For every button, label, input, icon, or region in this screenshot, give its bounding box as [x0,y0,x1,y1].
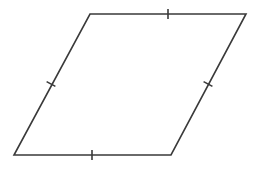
rhombus-outline [14,14,246,155]
rhombus-diagram [0,0,256,188]
congruence-tick-marks [47,9,213,160]
diagram-canvas [0,0,256,188]
